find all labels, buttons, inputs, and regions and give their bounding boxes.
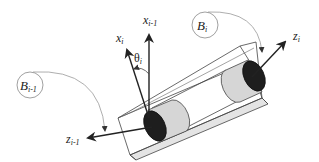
axis-z-prev <box>88 127 152 138</box>
label-z-prev: zi-1 <box>65 132 80 147</box>
label-theta: θi <box>134 51 142 66</box>
link-frame-diagram: xi-1 xi θi zi zi-1 Bi Bi-1 <box>0 0 319 162</box>
body-label-prev <box>17 72 105 131</box>
theta-arc <box>134 68 149 74</box>
label-z-curr: zi <box>292 29 300 44</box>
label-x-prev: xi-1 <box>142 13 157 28</box>
joint-cylinder-right <box>221 57 270 102</box>
diagram-canvas: xi-1 xi θi zi zi-1 Bi Bi-1 <box>0 0 319 162</box>
label-x-curr: xi <box>115 31 124 46</box>
